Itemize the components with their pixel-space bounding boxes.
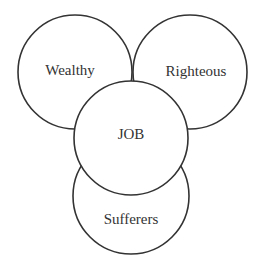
label-sufferers: Sufferers [104, 211, 159, 227]
circle-job: JOB [74, 81, 188, 195]
venn-diagram: Wealthy Righteous Sufferers JOB [0, 0, 266, 271]
label-wealthy: Wealthy [45, 62, 95, 78]
label-job: JOB [118, 126, 145, 142]
label-righteous: Righteous [166, 63, 227, 79]
